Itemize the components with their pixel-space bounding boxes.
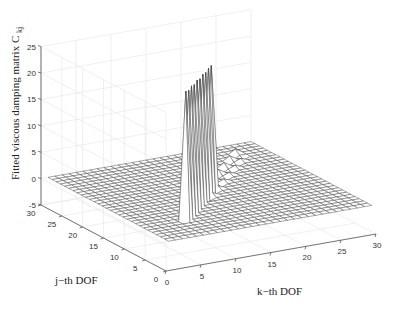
z-axis-label: Fitted viscous damping matrix C kj — [9, 27, 24, 180]
k-tick-label: 25 — [338, 247, 347, 256]
j-tick-label: 5 — [133, 264, 138, 273]
k-tick-label: 0 — [165, 278, 170, 287]
k-tick-label: 30 — [373, 241, 382, 250]
k-tick-label: 15 — [268, 260, 277, 269]
z-tick-label: 0 — [32, 175, 37, 184]
j-tick-label: 20 — [68, 231, 77, 240]
k-tick-label: 5 — [200, 272, 205, 281]
z-tick-label: 5 — [32, 148, 37, 157]
z-tick-label: 10 — [27, 122, 36, 131]
z-axis-label-text: Fitted viscous damping matrix C — [9, 36, 21, 180]
surface-mesh — [48, 66, 372, 242]
surface-plot: -50510152025051015202530051015202530 Fit… — [0, 0, 402, 311]
j-tick-label: 30 — [27, 209, 36, 218]
k-axis-label: k−th DOF — [257, 285, 302, 297]
z-axis-label-subscript: kj — [15, 27, 24, 33]
j-tick-label: 0 — [154, 275, 159, 284]
j-tick-label: 15 — [89, 242, 98, 251]
j-axis-label: j−th DOF — [54, 274, 98, 286]
j-tick-label: 10 — [110, 253, 119, 262]
k-tick-label: 10 — [233, 266, 242, 275]
z-tick-label: 25 — [27, 43, 36, 52]
z-tick-label: 20 — [27, 69, 36, 78]
k-tick-label: 20 — [303, 253, 312, 262]
z-tick-label: 15 — [27, 95, 36, 104]
j-tick-label: 25 — [47, 220, 56, 229]
